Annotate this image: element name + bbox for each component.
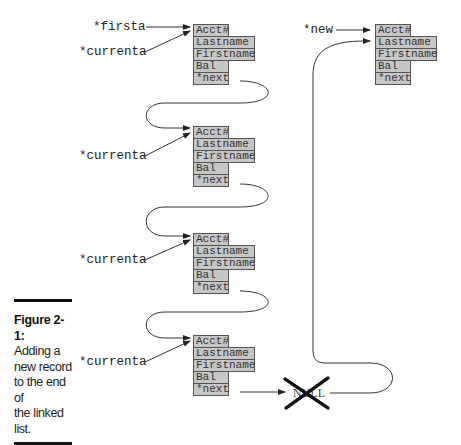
caption-line: Adding a [14, 344, 74, 360]
caption-line: new record [14, 360, 74, 376]
caption-line: to the end of [14, 375, 74, 406]
caption-title: Figure 2-1: [14, 313, 74, 344]
caption-line: list. [14, 422, 74, 438]
caption-line: the linked [14, 406, 74, 422]
figure-caption: Figure 2-1: Adding a new record to the e… [14, 299, 74, 445]
caption-top-rule [14, 299, 72, 302]
